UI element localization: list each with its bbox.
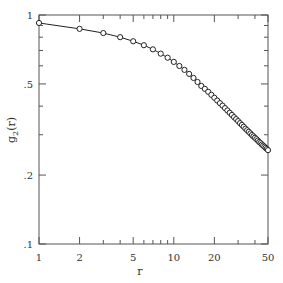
x-tick-label: 1 <box>36 252 42 263</box>
data-point <box>77 26 82 31</box>
x-tick-label: 50 <box>262 252 275 263</box>
data-point <box>158 51 163 56</box>
data-point <box>101 30 106 35</box>
data-point <box>265 148 270 153</box>
x-axis-ticks: 125102050 <box>36 15 275 263</box>
fit-line <box>39 23 268 150</box>
data-point <box>36 20 41 25</box>
y-tick-label: 1 <box>27 10 33 21</box>
data-point <box>118 35 123 40</box>
x-tick-label: 2 <box>76 252 82 263</box>
data-point <box>131 39 136 44</box>
chart: 125102050 .1.2.51 r g2(r) <box>0 0 283 283</box>
x-axis-label: r <box>137 265 143 278</box>
x-tick-label: 10 <box>167 252 180 263</box>
data-point <box>141 43 146 48</box>
y-axis-label: g2(r) <box>5 117 20 143</box>
y-tick-label: .1 <box>23 239 33 250</box>
data-point <box>150 47 155 52</box>
x-tick-label: 20 <box>208 252 221 263</box>
y-tick-label: .5 <box>23 79 33 90</box>
data-point <box>165 55 170 60</box>
data-point <box>177 63 182 68</box>
data-point <box>191 75 196 80</box>
data-point <box>187 71 192 76</box>
y-tick-label: .2 <box>23 170 33 181</box>
data-points <box>36 20 270 152</box>
data-point <box>182 67 187 72</box>
data-point <box>171 59 176 64</box>
x-tick-label: 5 <box>130 252 136 263</box>
